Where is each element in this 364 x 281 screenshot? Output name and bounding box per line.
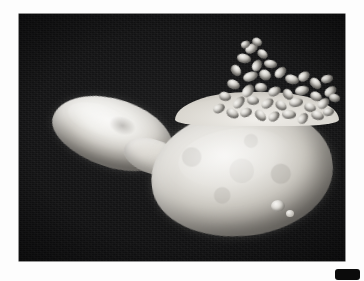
microbe-particle — [212, 102, 226, 115]
microbe-particle — [218, 90, 232, 102]
attached-microbe-cluster — [197, 42, 345, 134]
surface-bleb-large — [271, 200, 285, 212]
micrograph-plate — [19, 14, 345, 261]
microbe-particle — [267, 110, 282, 124]
microbe-particle — [242, 70, 259, 83]
microbe-particle — [267, 85, 282, 98]
microbe-particle — [282, 109, 297, 119]
microbe-particle — [253, 108, 268, 124]
microbe-particle — [246, 95, 260, 106]
microbe-particle — [226, 78, 242, 92]
figure-page — [0, 0, 364, 281]
surface-bleb-small — [286, 210, 294, 217]
microbe-particle — [229, 63, 243, 78]
microbe-particle — [289, 97, 304, 107]
microbe-particle — [322, 107, 334, 117]
microbe-particle — [260, 96, 276, 110]
microbe-particle — [236, 52, 252, 64]
microbe-particle — [296, 111, 311, 126]
microbe-particle — [239, 107, 253, 119]
microbe-particle — [263, 59, 277, 69]
microbe-particle — [328, 93, 341, 104]
corner-badge[interactable] — [335, 269, 360, 280]
microbe-particle — [257, 67, 273, 82]
microbe-particle — [294, 85, 309, 96]
microbe-particle — [254, 82, 267, 93]
microbe-particle — [320, 74, 333, 84]
